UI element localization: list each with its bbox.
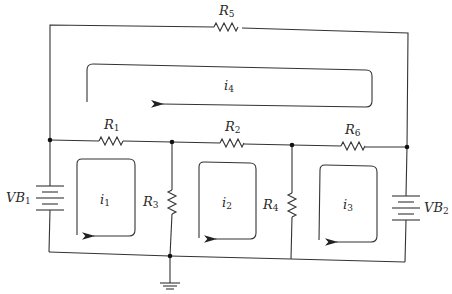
label-r2: R2 (225, 120, 241, 135)
label-r1: R1 (104, 118, 120, 133)
middle-wire (50, 137, 407, 150)
label-r5: R5 (219, 4, 235, 19)
battery-vb1 (36, 140, 64, 252)
label-r4: R4 (263, 198, 279, 213)
label-i4: i4 (224, 79, 234, 94)
label-r6: R6 (345, 123, 361, 138)
label-vb2: VB2 (424, 201, 449, 216)
resistor-r6 (341, 142, 365, 150)
resistor-r1 (99, 137, 123, 145)
label-vb1: VB1 (6, 191, 31, 206)
resistor-r5 (214, 23, 238, 31)
bottom-wire (49, 252, 405, 262)
label-i1: i1 (100, 193, 110, 208)
battery-vb2 (392, 147, 420, 262)
branch-r3 (168, 142, 176, 256)
label-r3: R3 (143, 195, 159, 210)
circuit-diagram (0, 0, 452, 294)
resistor-r4 (288, 193, 296, 217)
label-i3: i3 (343, 198, 353, 213)
branch-r4 (288, 145, 296, 259)
ground-symbol (160, 256, 180, 289)
resistor-r3 (168, 190, 176, 214)
resistor-r2 (220, 139, 244, 147)
label-i2: i2 (222, 196, 232, 211)
